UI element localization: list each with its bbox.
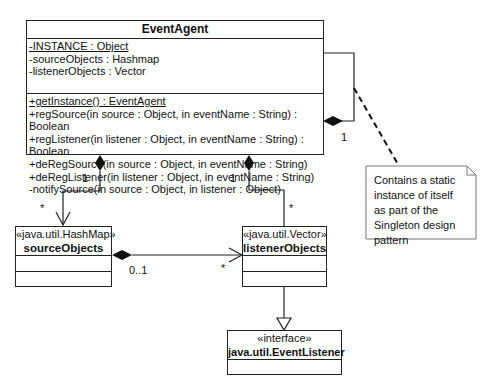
class-header: «java.util.HashMap» sourceObjects	[16, 227, 111, 256]
composition-diamond-icon	[323, 116, 343, 126]
class-name: sourceObjects	[16, 241, 111, 255]
realization-triangle-icon	[277, 318, 291, 330]
composition-diamond-icon	[112, 250, 132, 260]
class-header: «java.util.Vector» listenerObjects	[243, 227, 326, 256]
note-text: Contains a static instance of itself as …	[368, 168, 468, 238]
multiplicity-label: *	[221, 262, 225, 274]
class-source-objects: «java.util.HashMap» sourceObjects	[15, 226, 112, 287]
class-name: listenerObjects	[243, 241, 326, 255]
operations-section	[16, 272, 111, 288]
class-listener-objects: «java.util.Vector» listenerObjects	[242, 226, 327, 287]
interface-header: «interface» java.util.EventListener	[228, 331, 341, 360]
attribute-listener-objects: -listenerObjects : Vector	[29, 65, 321, 78]
operation-get-instance: +getInstance() : EventAgent	[29, 95, 321, 108]
operation-reg-source: +regSource(in source : Object, in eventN…	[29, 108, 321, 133]
interface-event-listener: «interface» java.util.EventListener	[227, 330, 342, 375]
multiplicity-label: 1	[82, 172, 88, 184]
note-anchor-line	[354, 88, 399, 166]
attribute-source-objects: -sourceObjects : Hashmap	[29, 53, 321, 66]
multiplicity-label: *	[40, 202, 44, 214]
multiplicity-label: 0..1	[129, 264, 147, 276]
stereotype: «java.util.Vector»	[243, 228, 326, 241]
operations-section	[228, 360, 341, 362]
interface-name: java.util.EventListener	[228, 345, 341, 359]
class-name: EventAgent	[27, 21, 323, 39]
multiplicity-label: *	[289, 202, 293, 214]
operation-notify-source: -notifySource(in source : Object, in lis…	[29, 183, 321, 196]
attributes-section	[243, 256, 326, 272]
stereotype: «java.util.HashMap»	[16, 228, 111, 241]
multiplicity-label: 1	[230, 172, 236, 184]
operations-section	[243, 272, 326, 288]
class-event-agent: EventAgent -INSTANCE : Object -sourceObj…	[26, 20, 324, 155]
operation-dereg-listener: +deRegListener(in listener : Object, in …	[29, 171, 321, 184]
stereotype: «interface»	[228, 332, 341, 345]
operation-dereg-source: +deRegSource(in source : Object, in even…	[29, 158, 321, 171]
attributes-section	[16, 256, 111, 272]
operations-section: +getInstance() : EventAgent +regSource(i…	[27, 94, 323, 197]
attributes-section: -INSTANCE : Object -sourceObjects : Hash…	[27, 39, 323, 94]
attribute-instance: -INSTANCE : Object	[29, 40, 321, 53]
multiplicity-label: 1	[341, 131, 347, 143]
self-composition-line	[323, 53, 354, 121]
operation-reg-listener: +regListener(in listener : Object, in ev…	[29, 133, 321, 158]
